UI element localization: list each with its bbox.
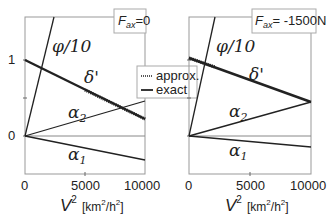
right-line-alpha1	[189, 136, 311, 147]
right-xtick-label-5000: 5000	[236, 178, 265, 193]
legend-approx-label: approx.	[156, 68, 199, 83]
right-xtick-label-0: 0	[185, 178, 192, 193]
left-xtick-label-10000: 10000	[124, 178, 160, 193]
legend: approx. exact	[137, 66, 199, 98]
left-xlabel: V2	[60, 194, 77, 215]
right-label-phi: φ/10	[216, 36, 255, 56]
left-ytick-label-0: 0	[8, 128, 15, 143]
right-xlabel: V2	[225, 194, 242, 215]
chart-canvas: φ/10 δ' α2 α1 Fax=0 1 0 0 5000 10000 V2 …	[0, 0, 336, 218]
left-line-phi	[25, 17, 54, 136]
legend-exact-label: exact	[156, 82, 187, 97]
left-label-phi: φ/10	[52, 36, 91, 56]
left-plot: φ/10 δ' α2 α1 Fax=0 1 0 0 5000 10000 V2 …	[8, 9, 160, 215]
left-xtick-label-5000: 5000	[71, 178, 100, 193]
left-label-delta: δ'	[84, 67, 99, 87]
right-xlabel-unit: [km2/h2]	[247, 198, 289, 214]
right-plot: φ/10 δ' α2 α1 Fax= -1500N 0 5000 10000 V…	[185, 9, 326, 215]
right-label-alpha1: α1	[229, 140, 247, 163]
left-ytick-label-1: 1	[8, 52, 15, 67]
right-label-delta: δ'	[249, 64, 264, 84]
right-label-alpha2: α2	[229, 101, 247, 124]
left-xtick-label-0: 0	[21, 178, 28, 193]
left-label-alpha2: α2	[68, 102, 86, 125]
left-xlabel-unit: [km2/h2]	[82, 198, 124, 214]
right-xtick-label-10000: 10000	[290, 178, 326, 193]
right-line-alpha2	[189, 102, 311, 136]
